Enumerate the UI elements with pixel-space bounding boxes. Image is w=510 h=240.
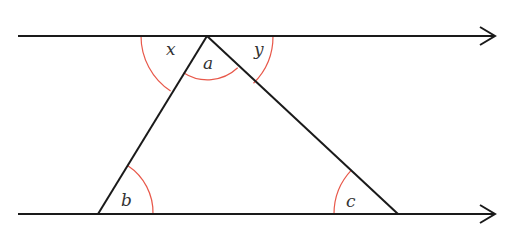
label-c: c (346, 191, 356, 211)
triangle-right-side (207, 36, 398, 214)
label-y: y (253, 39, 264, 59)
label-x: x (166, 39, 176, 59)
triangle (98, 36, 398, 214)
label-a: a (203, 53, 213, 73)
label-b: b (121, 190, 132, 210)
angles-diagram: x a y b c (0, 0, 510, 240)
triangle-left-side (98, 36, 207, 214)
